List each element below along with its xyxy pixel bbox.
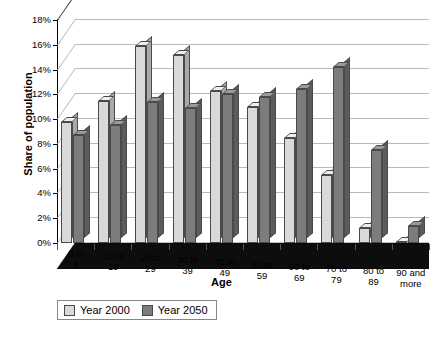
legend-label-year-2050: Year 2050 <box>158 304 208 316</box>
bar-side-face <box>196 98 202 238</box>
bar <box>284 138 295 243</box>
gridline <box>75 68 429 69</box>
bar-front-face <box>321 175 332 243</box>
x-axis-tick-mark <box>355 244 356 250</box>
bar-side-face <box>307 79 313 238</box>
bar-front-face <box>259 97 270 243</box>
y-axis-tick-label: 4% <box>17 187 51 198</box>
x-axis-tick-label: 20 to 29 <box>130 252 170 274</box>
y-axis-tick-label: 18% <box>17 14 51 25</box>
bar-front-face <box>61 122 72 243</box>
bar <box>408 226 419 243</box>
y-axis-tick-label: 2% <box>17 212 51 223</box>
bar <box>321 175 332 243</box>
bar <box>110 125 121 243</box>
bar <box>333 67 344 243</box>
y-axis-tick-label: 6% <box>17 163 51 174</box>
bar-side-face <box>344 57 350 238</box>
bar-front-face <box>185 108 196 243</box>
bar-side-face <box>84 125 90 238</box>
bar <box>259 97 270 243</box>
x-axis-tick-mark <box>280 244 281 250</box>
bar-front-face <box>247 107 258 243</box>
bar-front-face <box>284 138 295 243</box>
bar-front-face <box>359 228 370 243</box>
bar-side-face <box>233 84 239 238</box>
depth-edge-line <box>57 68 76 95</box>
legend-swatch-icon-year-2050 <box>142 305 153 316</box>
x-axis-tick-mark <box>169 244 170 250</box>
bar <box>222 94 233 243</box>
chart-container: Share of population 0%2%4%6%8%10%12%14%1… <box>0 0 443 337</box>
x-axis-tick-mark <box>131 244 132 250</box>
bar-side-face <box>158 92 164 238</box>
bar <box>185 108 196 243</box>
bar-side-face <box>270 87 276 238</box>
bar-front-face <box>73 135 84 243</box>
bar <box>371 150 382 243</box>
y-axis-line <box>57 19 58 244</box>
x-axis-tick-mark <box>429 244 430 250</box>
bar-front-face <box>371 150 382 243</box>
x-axis-tick-mark <box>317 244 318 250</box>
y-axis-tick-label: 8% <box>17 138 51 149</box>
legend-item-year-2050: Year 2050 <box>142 304 208 316</box>
bar-front-face <box>147 102 158 243</box>
y-axis-tick-label: 0% <box>17 237 51 248</box>
bar-front-face <box>98 101 109 243</box>
y-axis-tick-label: 10% <box>17 113 51 124</box>
x-axis-tick-label: 10 to 19 <box>93 250 133 272</box>
bar <box>396 242 407 243</box>
bar <box>135 46 146 243</box>
bar <box>247 107 258 243</box>
bar-front-face <box>135 46 146 243</box>
y-axis-tick-label: 14% <box>17 64 51 75</box>
bar-front-face <box>408 226 419 243</box>
bar <box>147 102 158 243</box>
bar <box>61 122 72 243</box>
bar-front-face <box>222 94 233 243</box>
bar-front-face <box>296 89 307 243</box>
x-axis-tick-mark <box>206 244 207 250</box>
gridline <box>75 44 429 45</box>
bar <box>98 101 109 243</box>
x-axis-tick-mark <box>392 244 393 250</box>
bar-side-face <box>121 115 127 238</box>
y-axis-tick-label: 12% <box>17 88 51 99</box>
bar-side-face <box>382 140 388 238</box>
y-axis-tick-label: 16% <box>17 39 51 50</box>
bar-front-face <box>110 125 121 243</box>
x-axis-tick-label: 0 to 9 <box>56 248 96 270</box>
legend-item-year-2000: Year 2000 <box>64 304 130 316</box>
bar <box>359 228 370 243</box>
x-axis-tick-mark <box>243 244 244 250</box>
bar-front-face <box>173 55 184 243</box>
depth-edge-line <box>57 0 76 21</box>
bar <box>296 89 307 243</box>
bar-front-face <box>210 91 221 243</box>
bar <box>73 135 84 243</box>
x-axis-tick-label: 30 to 39 <box>168 254 208 276</box>
x-axis-title: Age <box>0 276 443 288</box>
bar <box>173 55 184 243</box>
depth-edge-line <box>57 19 76 46</box>
legend-swatch-icon-year-2000 <box>64 305 75 316</box>
chart-legend: Year 2000 Year 2050 <box>57 300 217 320</box>
bar <box>210 91 221 243</box>
gridline <box>75 19 429 20</box>
bar-front-face <box>333 67 344 243</box>
depth-edge-line <box>57 44 76 71</box>
gridline <box>75 93 429 94</box>
legend-label-year-2000: Year 2000 <box>80 304 130 316</box>
